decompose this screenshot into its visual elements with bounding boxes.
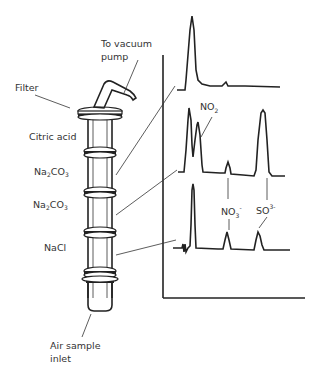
nacl-label: NaCl <box>44 242 66 253</box>
inlet-leader <box>82 314 91 337</box>
filter-leader <box>35 95 70 108</box>
ring-joint-2 <box>84 187 116 198</box>
connector-citric-middle <box>116 170 177 215</box>
denuder-tube <box>78 81 136 311</box>
citric-acid-label: Citric acid <box>29 131 77 142</box>
no2-leader <box>201 117 212 137</box>
bottom-trace <box>173 184 290 252</box>
vacuum-hose <box>94 81 136 108</box>
no3-label: NO3- <box>221 204 242 219</box>
connector-na2co3-bottom <box>116 240 176 255</box>
ring-joint-1 <box>84 147 116 158</box>
top-trace <box>177 16 280 90</box>
filter-holder <box>78 107 122 120</box>
na2co3-label-2: Na2CO3 <box>33 199 68 211</box>
so3-label: SO3- <box>256 203 276 216</box>
middle-trace <box>178 108 285 176</box>
denuder-diagram: NO2 NO3- SO3- <box>0 0 320 377</box>
so3-leader-bottom <box>259 217 267 228</box>
vacuum-leader <box>124 60 138 93</box>
connector-filter-top <box>116 86 175 175</box>
inlet-cup <box>82 276 118 311</box>
ring-joint-3 <box>84 227 116 238</box>
na2co3-label-1: Na2CO3 <box>34 166 69 178</box>
vacuum-label: To vacuum pump <box>100 38 155 62</box>
filter-label: Filter <box>15 82 39 93</box>
no2-label: NO2 <box>200 101 219 114</box>
inlet-label: Air sample inlet <box>50 340 104 364</box>
